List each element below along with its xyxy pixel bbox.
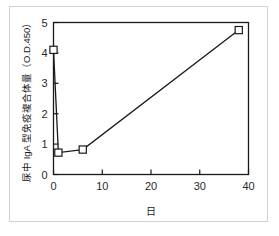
x-tick-label: 10: [96, 180, 108, 192]
y-axis-tick-labels: 012345: [41, 17, 47, 181]
y-tick-label: 1: [41, 138, 47, 150]
data-point-marker: [79, 146, 86, 153]
x-tick-label: 0: [50, 180, 56, 192]
data-point-marker: [50, 46, 57, 53]
x-axis-tick-labels: 010203040: [50, 180, 254, 192]
x-tick-label: 30: [194, 180, 206, 192]
plot-area: 012345 010203040: [0, 0, 279, 236]
y-tick-label: 0: [41, 169, 47, 181]
chart-container: 尿中 IgA 型免疫複合体量（O.D.450） 日 012345 0102030…: [0, 0, 279, 236]
x-tick-label: 20: [145, 180, 157, 192]
x-tick-label: 40: [242, 180, 254, 192]
y-tick-label: 3: [41, 77, 47, 89]
y-tick-label: 4: [41, 47, 47, 59]
y-tick-label: 2: [41, 108, 47, 120]
data-point-marker: [55, 149, 62, 156]
data-point-marker: [235, 27, 242, 34]
y-tick-label: 5: [41, 17, 47, 29]
